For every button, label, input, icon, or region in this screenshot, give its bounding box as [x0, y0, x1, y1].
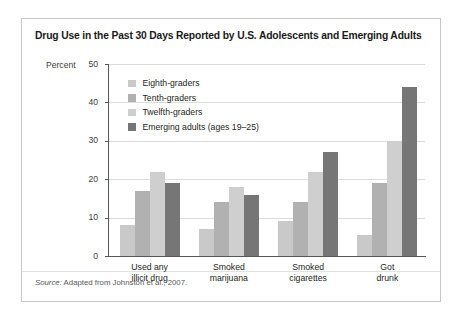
y-axis-tick-label: 40	[72, 98, 98, 107]
bar-group	[278, 64, 338, 256]
y-axis-tick-label: 50	[72, 60, 98, 69]
y-axis-tick-mark	[105, 102, 108, 103]
y-axis-tick-label: 10	[72, 213, 98, 222]
bar	[199, 229, 214, 256]
bar	[402, 87, 417, 256]
y-axis-tick-mark	[105, 64, 108, 65]
bar	[244, 195, 259, 256]
bar	[214, 202, 229, 256]
legend-item: Emerging adults (ages 19–25)	[128, 120, 259, 135]
legend-item-label: Eighth-graders	[143, 78, 200, 88]
bar	[165, 183, 180, 256]
y-axis-tick-mark	[105, 141, 108, 142]
y-axis-tick-label: 20	[72, 175, 98, 184]
x-axis-category-label-line: drunk	[337, 273, 437, 284]
legend-item: Tenth-graders	[128, 91, 259, 106]
x-axis-line	[108, 256, 426, 257]
chart-title: Drug Use in the Past 30 Days Reported by…	[35, 30, 431, 42]
y-axis-tick-label: 0	[72, 252, 98, 261]
legend-item: Eighth-graders	[128, 76, 259, 91]
y-axis-tick-mark	[105, 179, 108, 180]
figure-container: Drug Use in the Past 30 Days Reported by…	[21, 18, 441, 302]
bar	[308, 172, 323, 256]
bar	[229, 187, 244, 256]
bar	[135, 191, 150, 256]
bar	[387, 141, 402, 256]
bar-group	[357, 64, 417, 256]
bar	[278, 221, 293, 256]
chart-legend: Eighth-gradersTenth-gradersTwelfth-grade…	[128, 76, 259, 134]
x-axis-category-label: Gotdrunk	[337, 262, 437, 283]
legend-item: Twelfth-graders	[128, 105, 259, 120]
bar	[372, 183, 387, 256]
bar	[357, 235, 372, 256]
bar	[120, 225, 135, 256]
bar	[150, 172, 165, 256]
legend-item-label: Tenth-graders	[143, 93, 197, 103]
legend-swatch-icon	[128, 123, 136, 131]
y-axis-tick-mark	[105, 218, 108, 219]
legend-item-label: Twelfth-graders	[143, 107, 203, 117]
bar	[293, 202, 308, 256]
legend-swatch-icon	[128, 80, 136, 88]
x-axis-category-label-line: Got	[337, 262, 437, 273]
y-axis-tick-label: 30	[72, 136, 98, 145]
y-axis-tick-mark	[105, 256, 108, 257]
legend-swatch-icon	[128, 94, 136, 102]
y-axis-line	[108, 64, 109, 257]
legend-swatch-icon	[128, 109, 136, 117]
bar	[323, 152, 338, 256]
legend-item-label: Emerging adults (ages 19–25)	[143, 122, 259, 132]
source-label: Source:	[35, 278, 62, 287]
